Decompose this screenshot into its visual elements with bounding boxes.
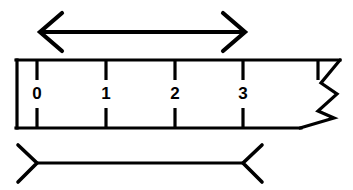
ruler-diagram: 0 1 2 3 xyxy=(0,0,353,190)
bottom-bracket-right-head xyxy=(243,145,262,182)
ruler-label-3: 3 xyxy=(238,84,247,103)
double-headed-measure-arrow xyxy=(40,13,245,51)
ruler-bottom-ticks xyxy=(37,108,243,128)
torn-edge-zigzag-icon xyxy=(300,60,340,128)
ruler-diagram-canvas: 0 1 2 3 xyxy=(0,0,353,190)
ruler-top-ticks xyxy=(37,60,318,80)
dimension-bracket xyxy=(18,145,262,182)
ruler-label-2: 2 xyxy=(170,84,179,103)
ruler-label-0: 0 xyxy=(32,84,41,103)
ruler-scale-labels: 0 1 2 3 xyxy=(32,84,247,103)
ruler-label-1: 1 xyxy=(101,84,110,103)
bottom-bracket-left-head xyxy=(18,145,37,182)
ruler-scale: 0 1 2 3 xyxy=(16,60,340,128)
